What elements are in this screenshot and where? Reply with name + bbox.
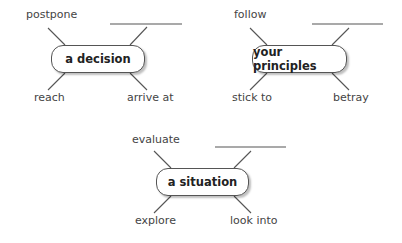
center-node-a-situation: a situation <box>156 168 249 196</box>
connector-line <box>154 151 171 168</box>
connector-line <box>250 73 267 90</box>
connector-line <box>48 28 65 45</box>
collocation-bottom-right: look into <box>230 214 277 227</box>
collocation-top-left: postpone <box>26 8 77 21</box>
collocation-bottom-left: explore <box>135 214 176 227</box>
collocation-bottom-left: stick to <box>232 91 272 104</box>
connector-line <box>48 73 65 90</box>
connector-line <box>234 151 251 168</box>
connector-line <box>250 28 267 45</box>
connector-line <box>130 73 147 90</box>
collocation-bottom-right: betray <box>333 91 369 104</box>
connector-line <box>154 196 171 213</box>
connector-line <box>332 73 349 90</box>
connector-line <box>234 196 251 213</box>
collocation-bottom-right: arrive at <box>127 91 173 104</box>
connector-lines <box>0 0 402 243</box>
collocation-top-left: evaluate <box>132 133 180 146</box>
collocation-bottom-left: reach <box>34 91 65 104</box>
center-node-a-decision: a decision <box>51 45 145 73</box>
connector-line <box>332 28 349 45</box>
center-node-your-principles: your principles <box>252 45 347 73</box>
collocation-top-left: follow <box>234 8 266 21</box>
connector-line <box>130 27 147 45</box>
